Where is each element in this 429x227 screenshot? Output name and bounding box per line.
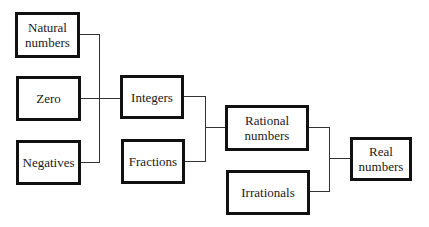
node-label: Irrationals [241,185,294,200]
connector-integers [183,96,206,97]
node-label-line: Real [369,144,393,159]
bracket-rational [205,96,206,162]
connector-natural [79,34,100,35]
node-integers: Integers [120,75,184,119]
node-rational-numbers: Rationalnumbers [225,105,309,151]
node-natural-numbers: Naturalnumbers [15,12,80,58]
connector-negatives [80,162,100,163]
connector-irrationals [309,191,330,192]
node-label-line: Rational [245,113,289,128]
node-label-line: numbers [359,159,404,174]
node-label-line: Natural [28,20,67,35]
connector-rational [308,127,330,128]
node-label: Zero [36,91,61,106]
node-irrationals: Irrationals [226,170,310,215]
node-negatives: Negatives [16,140,81,185]
connector-fractions [184,161,206,162]
node-label: Integers [131,90,173,105]
node-fractions: Fractions [121,139,185,184]
node-zero: Zero [16,76,81,121]
node-label: Fractions [129,154,177,169]
node-label-line: numbers [245,128,290,143]
bracket-integers [99,34,100,163]
connector-to-rational [205,127,225,128]
node-real-numbers: Realnumbers [350,137,412,181]
bracket-real [329,127,330,192]
connector-zero-to-integers [80,98,120,99]
node-label-line: numbers [25,35,70,50]
connector-to-real [329,158,350,159]
node-label: Negatives [23,155,75,170]
